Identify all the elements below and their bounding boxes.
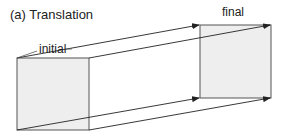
final-label: final bbox=[222, 5, 244, 19]
translation-diagram: (a) Translation initial final bbox=[0, 0, 284, 136]
initial-label: initial bbox=[39, 42, 66, 56]
arrow-bottom-right bbox=[89, 98, 270, 130]
figure-title: (a) Translation bbox=[10, 7, 93, 22]
